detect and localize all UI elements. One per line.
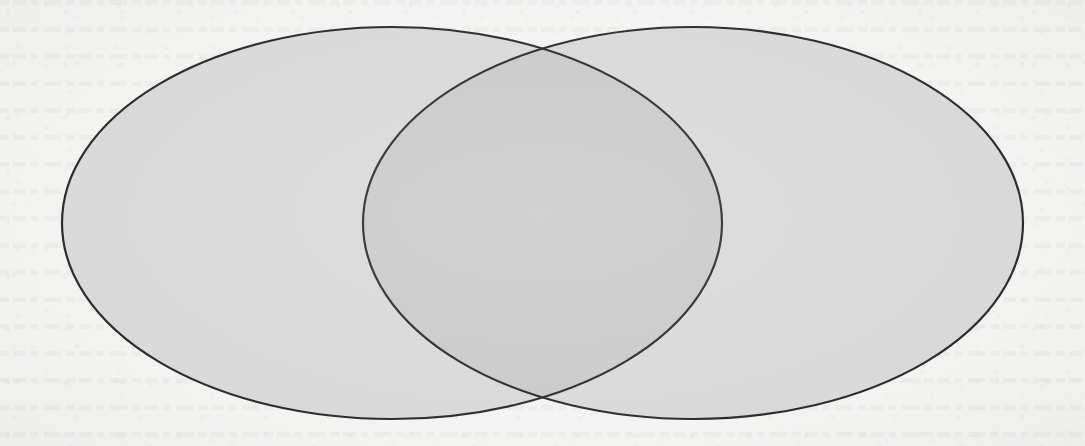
- venn-diagram-figure: [0, 0, 1085, 446]
- venn-diagram-canvas: [0, 0, 1085, 446]
